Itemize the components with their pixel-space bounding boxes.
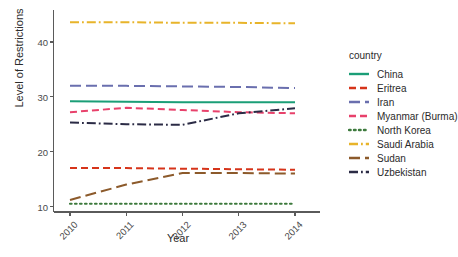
series-line xyxy=(70,168,295,170)
legend-swatch-icon xyxy=(348,152,370,164)
legend-item[interactable]: Sudan xyxy=(348,151,458,165)
legend-swatch-icon xyxy=(348,110,370,122)
x-axis-title: Year xyxy=(53,232,303,244)
legend-item[interactable]: Eritrea xyxy=(348,81,458,95)
legend-label: Eritrea xyxy=(377,83,406,94)
legend-label: Saudi Arabia xyxy=(377,139,434,150)
legend-item[interactable]: Saudi Arabia xyxy=(348,137,458,151)
legend-item[interactable]: Myanmar (Burma) xyxy=(348,109,458,123)
series-line xyxy=(70,173,295,200)
legend-swatch-icon xyxy=(348,138,370,150)
legend-items: ChinaEritreaIranMyanmar (Burma)North Kor… xyxy=(348,67,458,179)
series-line xyxy=(70,101,295,102)
legend-swatch-icon xyxy=(348,96,370,108)
legend-swatch-icon xyxy=(348,166,370,178)
legend-title: country xyxy=(349,50,458,61)
legend-swatch-icon xyxy=(348,82,370,94)
series-line xyxy=(70,22,295,23)
legend-label: North Korea xyxy=(377,125,431,136)
legend-item[interactable]: Iran xyxy=(348,95,458,109)
legend-label: Iran xyxy=(377,97,394,108)
legend-swatch-icon xyxy=(348,68,370,80)
legend-label: Uzbekistan xyxy=(377,167,426,178)
legend-swatch-icon xyxy=(348,124,370,136)
legend-item[interactable]: North Korea xyxy=(348,123,458,137)
legend-item[interactable]: Uzbekistan xyxy=(348,165,458,179)
legend-label: China xyxy=(377,69,403,80)
legend: country ChinaEritreaIranMyanmar (Burma)N… xyxy=(348,50,458,179)
series-line xyxy=(70,86,295,88)
legend-label: Myanmar (Burma) xyxy=(377,111,458,122)
legend-label: Sudan xyxy=(377,153,406,164)
y-axis-title: Level of Restrictions xyxy=(13,0,25,133)
legend-item[interactable]: China xyxy=(348,67,458,81)
